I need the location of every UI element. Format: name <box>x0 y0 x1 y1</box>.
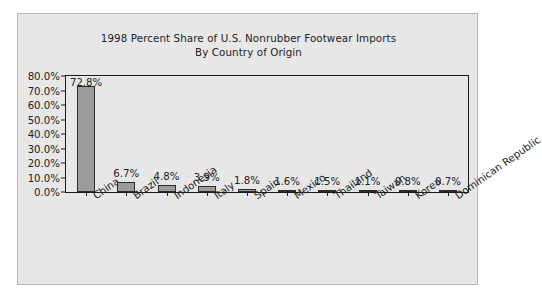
bar[interactable] <box>198 186 216 192</box>
y-axis-tick-label: 0.0% <box>34 187 66 198</box>
bar-value-label: 1.6% <box>274 176 300 187</box>
bar[interactable] <box>158 185 176 192</box>
bar[interactable] <box>318 190 336 192</box>
bar[interactable] <box>77 86 95 192</box>
bar-value-label: 0.8% <box>395 176 421 187</box>
x-axis-tick-label: Dominican Republic <box>453 134 542 201</box>
bar-value-label: 0.7% <box>435 176 461 187</box>
y-axis-tick-label: 70.0% <box>28 85 66 96</box>
x-axis-tick-mark <box>126 192 127 196</box>
y-axis-tick-label: 80.0% <box>28 71 66 82</box>
bar-value-label: 6.7% <box>113 168 139 179</box>
x-axis-tick-mark <box>368 192 369 196</box>
x-axis-tick-mark <box>287 192 288 196</box>
bar[interactable] <box>117 182 135 192</box>
chart-title-line-2: By Country of Origin <box>18 45 479 59</box>
x-axis-tick-mark <box>408 192 409 196</box>
bar-value-label: 1.1% <box>355 176 381 187</box>
bar[interactable] <box>238 189 256 192</box>
bar[interactable] <box>399 190 417 192</box>
bar-value-label: 3.9% <box>194 172 220 183</box>
x-axis-tick-mark <box>167 192 168 196</box>
y-axis-tick-label: 50.0% <box>28 114 66 125</box>
y-axis-tick-label: 10.0% <box>28 172 66 183</box>
bar-value-label: 4.8% <box>154 171 180 182</box>
chart-plate: 1998 Percent Share of U.S. Nonrubber Foo… <box>17 13 478 285</box>
bar[interactable] <box>278 190 296 192</box>
plot-area: 0.0%10.0%20.0%30.0%40.0%50.0%60.0%70.0%8… <box>65 75 469 193</box>
x-axis-tick-mark <box>247 192 248 196</box>
bar-value-label: 72.8% <box>70 77 102 88</box>
y-axis-tick-label: 20.0% <box>28 158 66 169</box>
bar-value-label: 1.5% <box>314 176 340 187</box>
y-axis-tick-label: 30.0% <box>28 143 66 154</box>
x-axis-tick-mark <box>327 192 328 196</box>
chart-title-line-1: 1998 Percent Share of U.S. Nonrubber Foo… <box>18 31 479 45</box>
x-axis-tick-mark <box>86 192 87 196</box>
y-axis-tick-label: 40.0% <box>28 129 66 140</box>
x-axis-tick-mark <box>207 192 208 196</box>
x-axis-tick-mark <box>448 192 449 196</box>
bar[interactable] <box>359 190 377 192</box>
y-axis-tick-label: 60.0% <box>28 100 66 111</box>
bar[interactable] <box>439 190 457 192</box>
bar-value-label: 1.8% <box>234 175 260 186</box>
chart-title: 1998 Percent Share of U.S. Nonrubber Foo… <box>18 31 479 59</box>
